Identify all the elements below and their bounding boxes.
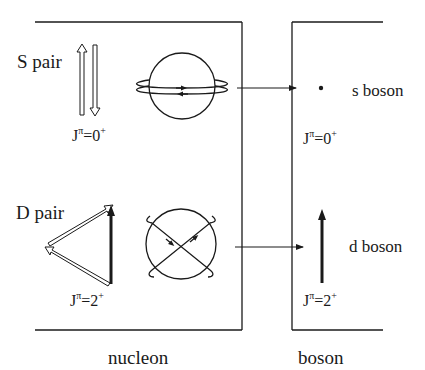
jp-pi: π: [78, 125, 83, 136]
s-boson-jpi: Jπ=0+: [303, 131, 337, 147]
nucleon-panel-title: nucleon: [108, 348, 168, 367]
jp-pi: π: [309, 128, 314, 139]
jp-pi: π: [309, 290, 314, 301]
s-pair-label: S pair: [17, 52, 62, 71]
s-pair-arrows-icon: [77, 44, 100, 116]
boson-panel-title: boson: [298, 348, 343, 367]
s-boson-dot-icon: [319, 86, 323, 90]
d-boson-jpi: Jπ=2+: [303, 293, 337, 309]
d-pair-jpi: Jπ=2+: [70, 293, 104, 309]
jp-value: =2: [314, 292, 331, 309]
jp-parity: +: [100, 125, 106, 136]
nucleon-box: [35, 22, 242, 330]
jp-parity: +: [98, 290, 104, 301]
d-boson-arrow-icon: [318, 209, 326, 283]
d-boson-label: d boson: [349, 238, 402, 255]
diagram-canvas: [0, 0, 425, 370]
s-pair-orbit-icon: [137, 53, 228, 119]
jp-parity: +: [331, 290, 337, 301]
s-boson-label: s boson: [352, 82, 403, 99]
jp-parity: +: [331, 128, 337, 139]
d-pair-label: D pair: [16, 203, 64, 222]
d-pair-orbit-icon: [146, 209, 216, 279]
jp-value: =0: [83, 127, 100, 144]
jp-pi: π: [76, 290, 81, 301]
boson-box: [292, 22, 383, 330]
jp-value: =2: [81, 292, 98, 309]
s-pair-jpi: Jπ=0+: [72, 128, 106, 144]
jp-value: =0: [314, 130, 331, 147]
